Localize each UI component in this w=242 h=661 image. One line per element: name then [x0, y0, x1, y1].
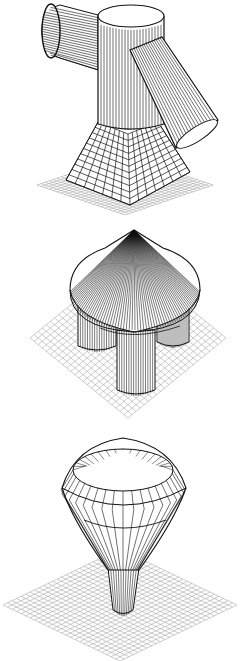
- figure-funnel-bulb: Funnel bulb on stem: [0, 420, 242, 661]
- branching-pipe-drawing: [0, 0, 242, 220]
- figure-branching-pipe: Branching cylinders on flared base: [0, 0, 242, 220]
- tapered-stem: [108, 568, 139, 616]
- funnel-bulb-drawing: [0, 420, 242, 661]
- horizontal-side-cylinder: [42, 4, 98, 70]
- funnel-bulb: [61, 438, 186, 570]
- cone-legs-drawing: [0, 220, 242, 420]
- figure-cone-legs: Cone cap on three legs: [0, 220, 242, 420]
